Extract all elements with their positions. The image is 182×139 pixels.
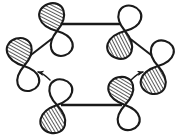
orbital-left	[4, 35, 43, 94]
orbital-bottom-left-lobe-top	[46, 77, 75, 108]
orbital-right-lobe-top	[147, 38, 176, 69]
orbital-bottom-right	[106, 74, 143, 132]
bond-group	[27, 24, 155, 105]
orbital-top-right	[104, 2, 145, 62]
orbital-right	[138, 38, 177, 97]
orbital-bottom-left-lobe-bottom	[38, 102, 69, 136]
orbital-top-right-lobe-bottom	[104, 27, 137, 62]
orbital-top-right-lobe-top	[114, 3, 144, 35]
orbital-right-lobe-bottom	[138, 63, 170, 97]
orbital-left-lobe-top	[4, 35, 36, 69]
orbital-left-lobe-bottom	[13, 63, 41, 94]
orbital-top-left-lobe-top	[36, 0, 69, 35]
orbital-top-left-lobe-bottom	[47, 28, 76, 59]
orbital-bottom-right-lobe-bottom	[114, 102, 142, 132]
orbital-top-left	[36, 0, 76, 59]
orbital-diagram-canvas	[0, 0, 182, 139]
orbital-diagram-svg	[0, 0, 182, 139]
